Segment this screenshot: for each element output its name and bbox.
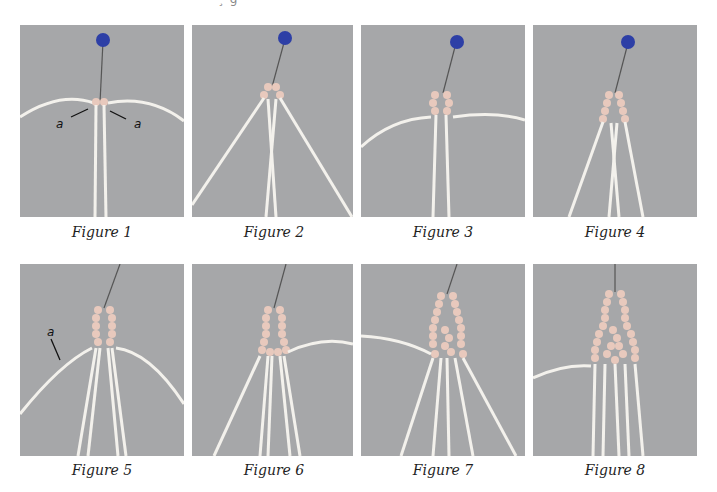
figure-2-illustration [192, 25, 353, 217]
label-a: a [47, 325, 54, 339]
figure-3-caption: Figure 3 [361, 224, 525, 240]
figure-7-caption: Figure 7 [361, 462, 525, 478]
label-a-left: a [56, 117, 63, 131]
figure-1-illustration: a a [20, 25, 184, 217]
figure-8-caption: Figure 8 [533, 462, 697, 478]
figure-3-photo [361, 25, 525, 217]
cropped-heading-fragment: ¸ g [218, 0, 238, 6]
figure-6-photo [192, 264, 353, 456]
pin-head-icon [278, 31, 292, 45]
figure-1-caption: Figure 1 [20, 224, 184, 240]
figure-7-illustration [361, 264, 525, 456]
figure-5-photo: a [20, 264, 184, 456]
figure-6-caption: Figure 6 [192, 462, 356, 478]
figure-8-photo [533, 264, 697, 456]
figure-3-illustration [361, 25, 525, 217]
figure-6-illustration [192, 264, 353, 456]
figure-5-illustration: a [20, 264, 184, 456]
pin-head-icon [621, 35, 635, 49]
figure-2-photo [192, 25, 353, 217]
figure-1-photo: a a [20, 25, 184, 217]
pin-head-icon [96, 33, 110, 47]
figure-7-photo [361, 264, 525, 456]
figure-4-illustration [533, 25, 697, 217]
figure-5-caption: Figure 5 [20, 462, 184, 478]
pin-head-icon [450, 35, 464, 49]
figure-2-caption: Figure 2 [192, 224, 356, 240]
label-a-right: a [134, 117, 141, 131]
figure-8-illustration [533, 264, 697, 456]
figure-4-caption: Figure 4 [533, 224, 697, 240]
figure-4-photo [533, 25, 697, 217]
